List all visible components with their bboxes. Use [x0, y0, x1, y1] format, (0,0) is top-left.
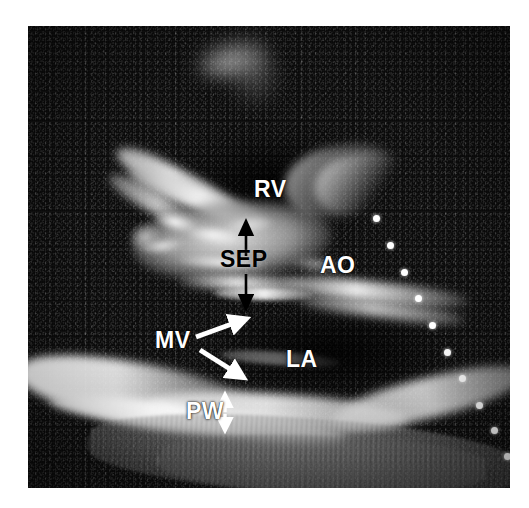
depth-scale-dot: [415, 295, 422, 302]
depth-scale-dot: [401, 269, 408, 276]
label-sep: SEP: [220, 248, 268, 271]
echocardiogram-page: RVSEPAOMVLAPW: [0, 0, 529, 508]
depth-scale-dot: [373, 215, 380, 222]
ultrasound-scan-image: RVSEPAOMVLAPW: [28, 26, 510, 488]
depth-scale-dot: [459, 375, 466, 382]
depth-scale-dot: [504, 453, 510, 460]
depth-scale-dot: [387, 242, 394, 249]
label-pw: PW: [186, 400, 224, 423]
depth-scale-dot: [429, 322, 436, 329]
label-rv: RV: [254, 178, 287, 201]
depth-scale-dot: [491, 427, 498, 434]
label-la: LA: [286, 348, 318, 371]
label-mv: MV: [155, 329, 191, 352]
label-ao: AO: [320, 254, 356, 277]
depth-scale-dot: [476, 402, 483, 409]
depth-scale-dot: [444, 349, 451, 356]
